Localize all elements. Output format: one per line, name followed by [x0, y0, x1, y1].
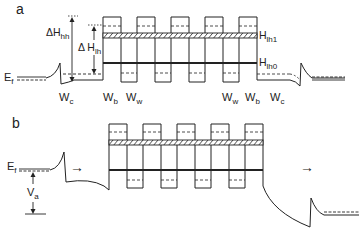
- left-contact-b: [19, 124, 109, 214]
- bias-voltage-label: Va: [27, 186, 39, 201]
- fermi-label-b: Ef: [7, 160, 17, 175]
- delta-hh-arrow: [68, 16, 78, 82]
- delta-hh-label: ΔHhh: [46, 26, 70, 41]
- width-label-ww-left: Ww: [126, 91, 142, 106]
- hlh1-miniband: [103, 33, 257, 38]
- right-contact-b: [263, 186, 359, 227]
- hlh0-label: Hlh0: [259, 56, 278, 71]
- width-label-wc-left: Wc: [59, 91, 73, 106]
- panel-b: b Ef Va →: [7, 115, 359, 227]
- left-contact-a: [17, 63, 102, 84]
- band-diagram: a Ef ΔHhh Δ Hlh: [0, 0, 359, 234]
- delta-lh-label: Δ Hlh: [78, 41, 101, 56]
- superlattice-b: [109, 124, 263, 188]
- arrow-right-icon: →: [300, 159, 314, 175]
- superlattice-a: [102, 17, 257, 82]
- width-label-wb-right: Wb: [245, 91, 260, 106]
- fermi-label-a: Ef: [4, 71, 14, 86]
- arrow-left-icon: →: [70, 159, 84, 175]
- width-label-wb-left: Wb: [103, 91, 118, 106]
- hlh1-miniband-b: [109, 140, 263, 145]
- width-label-wc-right: Wc: [270, 91, 284, 106]
- hlh1-label: Hlh1: [259, 29, 278, 44]
- panel-a-label: a: [16, 1, 24, 17]
- width-label-ww-right: Ww: [222, 91, 238, 106]
- panel-b-label: b: [12, 115, 20, 131]
- panel-a: a Ef ΔHhh Δ Hlh: [4, 1, 345, 106]
